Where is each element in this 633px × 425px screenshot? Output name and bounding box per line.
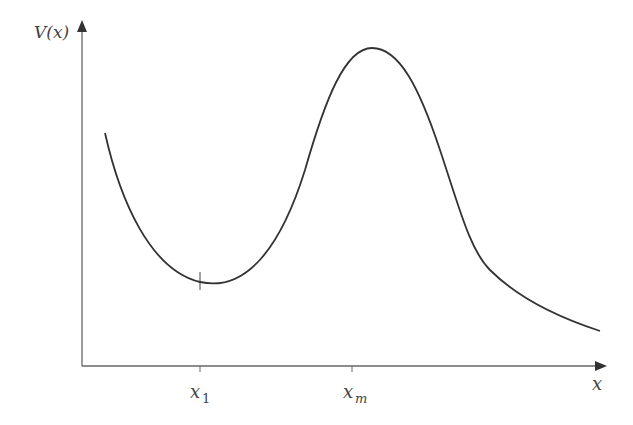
- tick-label-x1: x 1: [190, 381, 210, 406]
- tick-label-xm: x m: [343, 381, 367, 406]
- svg-text:x: x: [343, 381, 353, 402]
- potential-curve: [105, 48, 600, 331]
- svg-text:1: 1: [202, 391, 210, 406]
- x-axis-label: x: [592, 373, 602, 394]
- svg-text:m: m: [355, 391, 367, 406]
- y-axis-label: V(x): [34, 22, 69, 42]
- potential-diagram: V(x) x x 1 x m: [0, 0, 633, 425]
- svg-text:x: x: [190, 381, 200, 402]
